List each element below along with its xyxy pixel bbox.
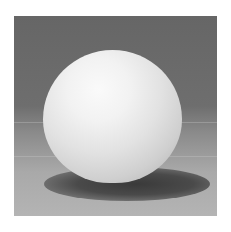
photo: Photograph of a white ball casting a sof… [14, 16, 217, 216]
white-sphere [43, 50, 182, 183]
